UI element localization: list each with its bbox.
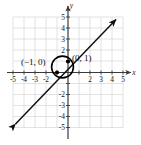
x-tick-label: 3 [99, 75, 103, 84]
point-zero-one [66, 59, 70, 63]
x-tick-label: 2 [88, 75, 92, 84]
y-tick-label: -4 [59, 112, 65, 121]
y-tick-label: 5 [61, 13, 65, 22]
y-tick-label: -2 [59, 90, 65, 99]
y-tick-label: 3 [61, 35, 65, 44]
y-axis-label: y [69, 1, 74, 10]
y-tick-label: -5 [59, 123, 65, 132]
y-tick-label: -3 [59, 101, 65, 110]
x-tick-label: -3 [32, 75, 38, 84]
y-tick-label: 2 [61, 46, 65, 55]
x-tick-label: -5 [10, 75, 16, 84]
graph-figure: -5 -4 -3 -2 2 3 4 5 5 4 3 2 -2 -3 -4 -5 [0, 0, 141, 145]
x-axis-label: x [131, 68, 136, 77]
annotation-left: (−1, 0) [21, 57, 46, 67]
point-minus-one-zero [55, 70, 59, 74]
y-tick-label: 4 [61, 24, 65, 33]
x-tick-label: -4 [21, 75, 27, 84]
annotation-right: (0, 1) [72, 53, 92, 63]
x-tick-label: 5 [121, 75, 125, 84]
x-tick-label: 4 [110, 75, 114, 84]
x-tick-label: -2 [43, 75, 49, 84]
coordinate-plane-svg: -5 -4 -3 -2 2 3 4 5 5 4 3 2 -2 -3 -4 -5 [0, 0, 141, 145]
